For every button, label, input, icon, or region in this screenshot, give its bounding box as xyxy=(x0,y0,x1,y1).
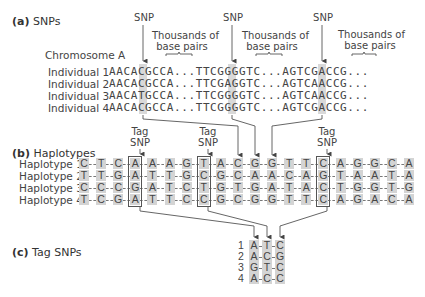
connector-lines xyxy=(0,0,425,297)
